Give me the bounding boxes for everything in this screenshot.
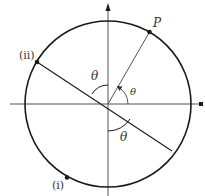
- point-p: [147, 30, 152, 35]
- unit-circle-diagram: P (ii) (i) θ θ θ: [0, 0, 205, 196]
- label-theta-first-quadrant: θ: [130, 86, 136, 97]
- label-theta-lower: θ: [120, 130, 128, 144]
- label-ii: (ii): [19, 49, 35, 62]
- label-theta-upper-left: θ: [91, 69, 99, 83]
- angle-arc-upper-left: [92, 85, 108, 94]
- label-i: (i): [52, 179, 64, 192]
- line-through-ii: [37, 62, 172, 151]
- y-axis-arrow-icon: [106, 3, 111, 11]
- point-ii: [35, 60, 40, 65]
- point-i: [65, 175, 70, 180]
- label-p: P: [152, 16, 162, 30]
- radius-to-p: [108, 32, 150, 104]
- x-axis-end-marker: [199, 102, 203, 106]
